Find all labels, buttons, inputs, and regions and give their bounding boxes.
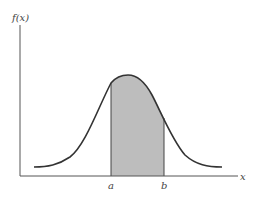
y-axis-label: f(x) <box>11 12 29 23</box>
density-chart: f(x) x a b <box>0 0 253 197</box>
shaded-area <box>111 75 164 176</box>
x-axis-label: x <box>240 171 246 182</box>
tick-label-a: a <box>108 180 114 191</box>
tick-label-b: b <box>161 180 167 191</box>
